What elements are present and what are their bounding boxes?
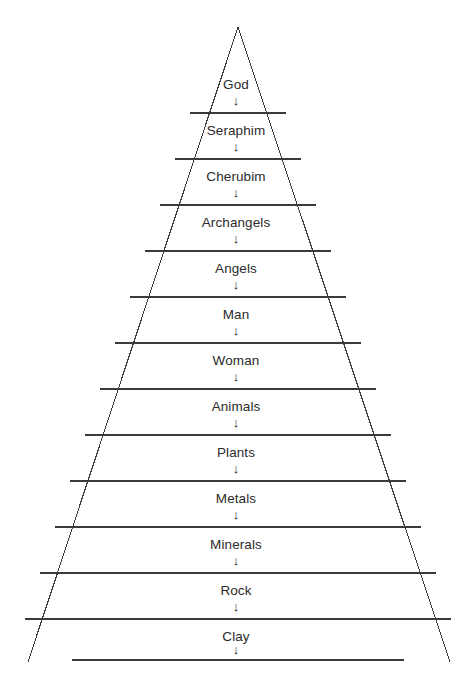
- level-label-plants: Plants: [0, 445, 472, 461]
- down-arrow-icon: ↓: [0, 94, 472, 107]
- down-arrow-icon: ↓: [0, 508, 472, 521]
- level-label-archangels: Archangels: [0, 215, 472, 231]
- down-arrow-icon: ↓: [0, 278, 472, 291]
- level-label-metals: Metals: [0, 491, 472, 507]
- down-arrow-icon: ↓: [0, 416, 472, 429]
- pyramid-diagram-canvas: God↓Seraphim↓Cherubim↓Archangels↓Angels↓…: [0, 0, 472, 680]
- down-arrow-icon: ↓: [0, 554, 472, 567]
- down-arrow-icon: ↓: [0, 600, 472, 613]
- down-arrow-icon: ↓: [0, 462, 472, 475]
- level-label-animals: Animals: [0, 399, 472, 415]
- level-label-rock: Rock: [0, 583, 472, 599]
- down-arrow-icon: ↓: [0, 370, 472, 383]
- down-arrow-icon: ↓: [0, 186, 472, 199]
- level-label-cherubim: Cherubim: [0, 169, 472, 185]
- level-label-seraphim: Seraphim: [0, 123, 472, 139]
- down-arrow-icon: ↓: [0, 232, 472, 245]
- level-label-woman: Woman: [0, 353, 472, 369]
- level-label-minerals: Minerals: [0, 537, 472, 553]
- level-label-god: God: [0, 77, 472, 93]
- level-label-angels: Angels: [0, 261, 472, 277]
- down-arrow-icon: ↓: [0, 140, 472, 153]
- down-arrow-icon: ↓: [0, 324, 472, 337]
- level-label-man: Man: [0, 307, 472, 323]
- down-arrow-icon: ↓: [0, 643, 472, 656]
